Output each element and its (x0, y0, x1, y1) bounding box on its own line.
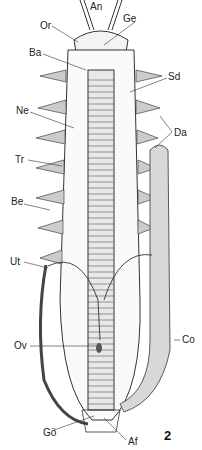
label-af: Af (128, 437, 137, 447)
label-ov: Ov (14, 341, 27, 351)
label-sd: Sd (168, 72, 180, 82)
figure-number: 2 (164, 428, 171, 443)
label-co: Co (182, 335, 195, 345)
label-tr: Tr (15, 155, 24, 165)
label-ne: Ne (16, 106, 29, 116)
label-da: Da (174, 128, 187, 138)
label-go: Gö (43, 428, 56, 438)
label-an: An (90, 2, 102, 12)
label-ge: Ge (123, 14, 136, 24)
label-ba: Ba (29, 48, 41, 58)
label-be: Be (11, 197, 23, 207)
label-or: Or (40, 21, 51, 31)
label-ut: Ut (10, 257, 20, 267)
anatomical-drawing (0, 0, 202, 450)
